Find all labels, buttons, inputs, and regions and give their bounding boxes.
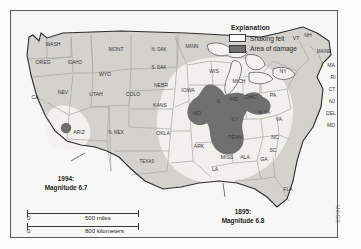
state-label: CA xyxy=(31,94,39,100)
state-label: NJ xyxy=(329,98,336,104)
state-label: WYO xyxy=(99,71,111,77)
event-magnitude: Magnitude 6.8 xyxy=(197,216,289,225)
scale-line xyxy=(27,213,139,214)
state-label: MA xyxy=(327,62,335,68)
state-label: MINN xyxy=(185,43,198,49)
state-label: FLA xyxy=(283,186,293,192)
scale-tick-right xyxy=(138,223,139,230)
scale-bars: 0 500 miles 0 800 kilometers xyxy=(27,210,157,236)
state-label: KANS xyxy=(153,102,167,108)
state-label: ARK xyxy=(194,143,205,149)
state-label: WIS xyxy=(209,68,219,74)
state-label: MISS xyxy=(221,154,234,160)
shaking-felt-swatch xyxy=(229,34,246,42)
state-label: KY xyxy=(232,116,239,122)
legend-item-label: Area of damage xyxy=(250,45,297,52)
state-label: RI xyxy=(330,74,335,80)
scale-tick-right xyxy=(138,210,139,217)
state-label: IOWA xyxy=(181,87,195,93)
event-year: 1994: xyxy=(23,174,109,183)
state-label: S. DAK xyxy=(152,65,167,70)
state-label: W. VA xyxy=(258,110,270,115)
state-label: GA xyxy=(260,156,268,162)
state-label: PA xyxy=(270,92,277,98)
state-label: VA xyxy=(276,116,283,122)
state-label: MO xyxy=(193,110,201,116)
state-label: MONT xyxy=(109,46,124,52)
state-label: MICH xyxy=(232,78,245,84)
event-label-1895: 1895: Magnitude 6.8 xyxy=(197,207,289,225)
state-label: WASH xyxy=(45,41,60,47)
legend-item-area-of-damage: Area of damage xyxy=(229,45,338,53)
state-label: OKLA xyxy=(156,130,170,136)
state-label: N. MEX xyxy=(108,130,124,135)
state-label: TEXAS xyxy=(140,159,155,164)
state-label: IDAHO xyxy=(68,60,83,65)
scale-zero-label: 0 xyxy=(27,228,30,234)
scale-bar-miles: 0 500 miles xyxy=(27,210,157,223)
legend-panel: Explanation Shaking felt Area of damage xyxy=(229,24,338,55)
legend-title: Explanation xyxy=(231,24,338,31)
state-label: DEL xyxy=(326,110,336,116)
state-label: OHIO xyxy=(244,94,257,100)
state-label: NY xyxy=(279,68,287,74)
state-label: MD xyxy=(327,122,335,128)
state-label: OREG xyxy=(35,59,50,65)
state-label: NC xyxy=(271,134,279,140)
state-label: ARIZ xyxy=(73,129,85,135)
map-plate: WASHOREGIDAHOMONTN. DAKS. DAKWYONEVUTAHC… xyxy=(10,10,338,238)
area-of-damage-swatch xyxy=(229,45,246,53)
state-label: NEV xyxy=(58,89,69,95)
legend-item-label: Shaking felt xyxy=(250,35,284,42)
legend-item-shaking-felt: Shaking felt xyxy=(229,34,338,42)
scale-value-label: 800 kilometers xyxy=(85,228,124,234)
state-label: UTAH xyxy=(89,91,103,97)
usgs-earthquake-map-figure: WASHOREGIDAHOMONTN. DAKS. DAKWYONEVUTAHC… xyxy=(0,0,361,249)
state-label: CT xyxy=(329,86,336,92)
state-label: ALA xyxy=(240,154,250,160)
state-label: IND xyxy=(230,96,239,102)
state-label: IL xyxy=(217,98,221,104)
state-label: NEBR xyxy=(154,82,168,88)
event-label-1994: 1994: Magnitude 6.7 xyxy=(23,174,109,192)
scale-zero-label: 0 xyxy=(27,215,30,221)
state-label: LA xyxy=(212,166,219,172)
scale-bar-kilometers: 0 800 kilometers xyxy=(27,223,157,236)
state-label: COLO xyxy=(126,91,140,97)
state-label: SC xyxy=(269,147,276,153)
event-year: 1895: xyxy=(197,207,289,216)
scale-value-label: 500 miles xyxy=(85,215,111,221)
state-label: TENN xyxy=(228,134,242,140)
event-magnitude: Magnitude 6.7 xyxy=(23,183,109,192)
usgs-credit: USGS xyxy=(335,205,341,224)
state-label: N. DAK xyxy=(151,47,166,52)
